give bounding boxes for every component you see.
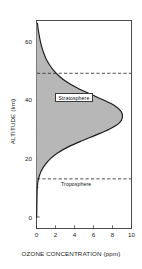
stratosphere-label: Stratosphere: [55, 93, 93, 102]
y-tick-label-40: 40: [18, 96, 32, 103]
x-tick-label-8: 8: [106, 231, 120, 238]
x-tick-label-10: 10: [125, 231, 139, 238]
x-tick-label-0: 0: [30, 231, 44, 238]
x-axis-title: OZONE CONCENTRATION (ppm): [0, 250, 142, 257]
y-tick-label-20: 20: [18, 155, 32, 162]
y-axis-title: ALTITUDE (km): [9, 86, 16, 158]
ozone-profile-figure: OZONE CONCENTRATION (ppm) ALTITUDE (km) …: [0, 0, 142, 269]
y-tick-label-60: 60: [18, 38, 32, 45]
y-tick-label-0: 0: [18, 214, 32, 221]
troposphere-label: Troposphere: [61, 181, 91, 187]
x-tick-label-2: 2: [49, 231, 63, 238]
x-tick-label-4: 4: [68, 231, 82, 238]
x-tick-label-6: 6: [87, 231, 101, 238]
ozone-area-fill: [37, 23, 123, 217]
